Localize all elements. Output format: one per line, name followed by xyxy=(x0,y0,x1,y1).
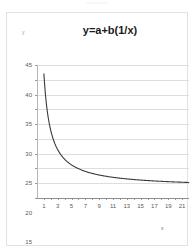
x-tick-label: 5 xyxy=(70,203,73,209)
y-tick-label: 35 xyxy=(25,121,32,127)
x-tick-label: 11 xyxy=(110,203,116,209)
top-caption: worksheet xyxy=(0,0,194,6)
x-tick-label: 3 xyxy=(56,203,59,209)
x-tick-label: 17 xyxy=(151,203,158,209)
y-tick-label: 20 xyxy=(25,210,32,216)
y-tick-label: 15 xyxy=(25,239,32,245)
x-axis-label: x xyxy=(161,225,164,231)
x-axis-line xyxy=(37,198,189,199)
curve-series xyxy=(37,65,189,198)
chart-page: worksheet y=a+b(1/x) y x 051015202530354… xyxy=(0,0,194,252)
x-tick-label: 13 xyxy=(123,203,130,209)
y-tick-label: 30 xyxy=(25,151,32,157)
plot-area: 051015202530354045 13579111315171921 xyxy=(37,65,189,198)
x-tick-label: 1 xyxy=(42,203,45,209)
chart-frame: y=a+b(1/x) y x 051015202530354045 135791… xyxy=(6,12,188,246)
x-tick-label: 7 xyxy=(84,203,87,209)
y-tick-label: 45 xyxy=(25,62,32,68)
chart-title: y=a+b(1/x) xyxy=(37,24,183,36)
x-tick-label: 21 xyxy=(179,203,186,209)
x-tick-label: 9 xyxy=(98,203,101,209)
x-tick-label: 19 xyxy=(165,203,172,209)
y-tick-label: 40 xyxy=(25,92,32,98)
x-tick-label: 15 xyxy=(137,203,144,209)
y-axis-label: y xyxy=(22,29,25,35)
y-tick-label: 25 xyxy=(25,180,32,186)
